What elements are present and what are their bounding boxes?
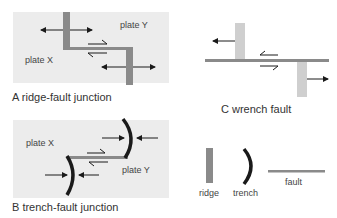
transform-fault (63, 47, 133, 50)
legend (206, 148, 325, 184)
panel-b-title: B trench-fault junction (12, 201, 118, 213)
legend-fault-swatch (268, 170, 325, 173)
legend-ridge-swatch (206, 148, 213, 183)
half-arrow-right-icon (260, 66, 278, 70)
legend-trench-swatch (244, 149, 251, 184)
plate-x-label: plate X (25, 55, 53, 65)
half-arrow-left-icon (260, 51, 278, 55)
plate-x-label: plate X (26, 138, 54, 148)
half-arrow-right-icon (88, 40, 107, 44)
ridge-segment-upper (63, 12, 70, 50)
plate-y-label: plate Y (120, 20, 148, 30)
ridge-segment-lower (297, 61, 307, 97)
wrench-fault (205, 59, 329, 62)
ridge-segment-upper (235, 23, 245, 61)
legend-ridge-label: ridge (199, 188, 219, 198)
trench-lower (67, 156, 73, 195)
half-arrow-left-icon (89, 162, 108, 166)
legend-fault-label: fault (285, 177, 302, 187)
transform-fault (67, 156, 128, 159)
half-arrow-right-icon (87, 149, 105, 153)
ridge-segment-lower (126, 47, 133, 85)
panel-a-title: A ridge-fault junction (12, 91, 112, 103)
half-arrow-left-icon (88, 53, 107, 57)
legend-trench-label: trench (233, 188, 258, 198)
panel-c-diagram (205, 23, 329, 97)
plate-y-label: plate Y (122, 165, 150, 175)
panel-c-title: C wrench fault (221, 103, 291, 115)
panel-b-diagram (45, 119, 158, 195)
trench-upper (123, 119, 131, 158)
